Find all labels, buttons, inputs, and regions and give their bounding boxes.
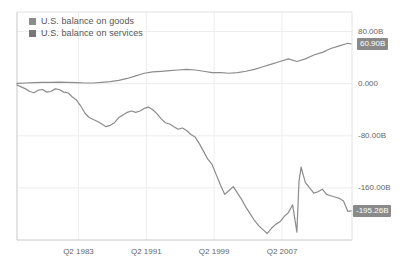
y-tick-label: -160.00B	[358, 183, 390, 192]
legend-item-goods[interactable]: U.S. balance on goods	[29, 15, 143, 27]
legend-swatch-goods	[29, 18, 36, 25]
legend-label-services: U.S. balance on services	[41, 27, 143, 39]
value-badge-goods[interactable]: -195.26B	[353, 205, 391, 217]
x-tick-label: Q2 1983	[54, 247, 102, 256]
x-tick-label: Q2 2007	[258, 247, 306, 256]
y-tick-label: 0.000	[358, 79, 378, 88]
legend-item-services[interactable]: U.S. balance on services	[29, 27, 143, 39]
chart-plot-area	[0, 0, 407, 269]
legend-label-goods: U.S. balance on goods	[41, 15, 134, 27]
y-tick-label: 80.00B	[358, 27, 383, 36]
y-tick-label: -80.00B	[358, 131, 386, 140]
x-tick-label: Q2 1999	[190, 247, 238, 256]
chart-container: U.S. balance on goods U.S. balance on se…	[0, 0, 407, 269]
chart-legend: U.S. balance on goods U.S. balance on se…	[29, 15, 143, 39]
plot-background	[17, 12, 352, 240]
x-tick-label: Q2 1991	[122, 247, 170, 256]
legend-swatch-services	[29, 30, 36, 37]
value-badge-services[interactable]: 60.90B	[357, 38, 388, 50]
